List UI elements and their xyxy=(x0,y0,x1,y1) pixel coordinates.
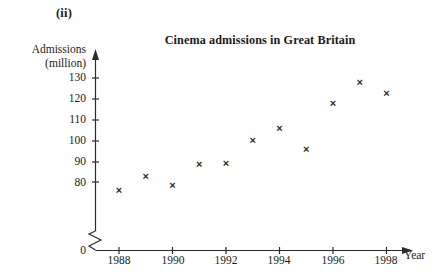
data-point-marker: × xyxy=(196,158,202,170)
figure-container: (ii) Cinema admissions in Great Britain … xyxy=(0,0,442,278)
data-point-group: ××××××××××× xyxy=(116,76,390,196)
data-point-marker: × xyxy=(169,179,175,191)
data-point-marker: × xyxy=(303,143,309,155)
axis-break-icon xyxy=(89,231,101,250)
data-point-marker: × xyxy=(250,134,256,146)
data-point-marker: × xyxy=(383,87,389,99)
plot-area: ××××××××××× xyxy=(0,0,442,278)
data-point-marker: × xyxy=(330,97,336,109)
y-axis xyxy=(89,49,101,250)
data-point-marker: × xyxy=(116,184,122,196)
data-point-marker: × xyxy=(357,76,363,88)
x-axis xyxy=(96,247,414,254)
y-axis-arrow-icon xyxy=(92,49,99,60)
data-point-marker: × xyxy=(276,122,282,134)
data-point-marker: × xyxy=(223,157,229,169)
x-axis-arrow-icon xyxy=(402,247,413,254)
data-point-marker: × xyxy=(143,170,149,182)
